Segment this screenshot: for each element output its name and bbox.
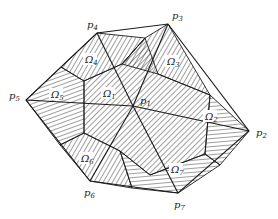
mesh-diagram: p1 p2 p3 p4 p5 p6 p7 Ω1 Ω2 Ω3 Ω4 Ω5 Ω6 Ω… — [0, 0, 278, 219]
label-p7: p7 — [174, 199, 185, 212]
label-p3: p3 — [172, 10, 183, 23]
label-p6: p6 — [84, 187, 95, 200]
region-omega5 — [26, 67, 84, 145]
label-p2: p2 — [256, 127, 267, 140]
mesh-svg: p1 p2 p3 p4 p5 p6 p7 Ω1 Ω2 Ω3 Ω4 Ω5 Ω6 Ω… — [0, 0, 278, 219]
label-p4: p4 — [87, 19, 98, 32]
label-p5: p5 — [9, 90, 20, 103]
